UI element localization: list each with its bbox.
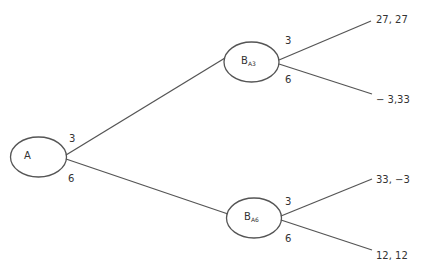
node-b-a3-label: BA3 — [241, 55, 256, 70]
game-tree-canvas — [0, 0, 422, 273]
edge-label-a-6: 6 — [68, 173, 74, 185]
payoff-1: 27, 27 — [376, 14, 408, 26]
node-b-a6-subscript: A6 — [251, 216, 259, 223]
edge-b-a3-top — [279, 21, 371, 60]
edge-b-a6-bottom — [281, 220, 372, 250]
node-b-a3-text: B — [241, 55, 248, 66]
node-a-ellipse — [11, 137, 67, 177]
edge-a-to-b-a6 — [66, 159, 228, 214]
payoff-2: − 3,33 — [376, 94, 410, 106]
edge-a-to-b-a3 — [66, 58, 225, 155]
payoff-4: 12, 12 — [376, 250, 408, 262]
node-b-a6-text: B — [244, 211, 251, 222]
node-a-label: A — [24, 150, 31, 162]
edge-label-b-a6-3: 3 — [285, 196, 291, 208]
node-b-a3-subscript: A3 — [248, 60, 256, 67]
edge-label-b-a6-6: 6 — [285, 233, 291, 245]
payoff-3: 33, −3 — [376, 174, 410, 186]
edge-label-a-3: 3 — [69, 133, 75, 145]
node-a-text: A — [24, 150, 31, 161]
edge-b-a6-top — [281, 179, 372, 216]
edge-b-a3-bottom — [279, 64, 372, 94]
edge-label-b-a3-3: 3 — [285, 35, 291, 47]
node-b-a6-label: BA6 — [244, 211, 259, 226]
edge-label-b-a3-6: 6 — [285, 74, 291, 86]
